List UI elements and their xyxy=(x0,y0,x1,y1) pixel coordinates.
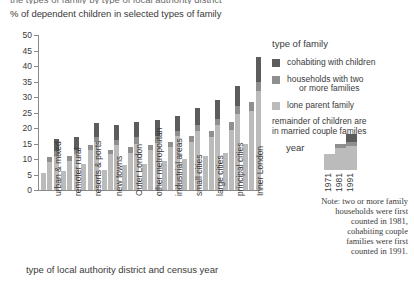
legend-item: households with twoor more families xyxy=(272,75,414,94)
year-key-label: 1981 xyxy=(334,173,344,192)
legend-items: cohabiting with childrenhouseholds with … xyxy=(272,58,414,110)
year-key-segment-lone xyxy=(335,148,346,170)
bar-segment-cohab xyxy=(256,57,261,82)
bar-segment-lone xyxy=(249,111,254,190)
cropped-heading: the types of family by type of local aut… xyxy=(10,0,310,4)
bar-1971 xyxy=(41,173,46,190)
bar-segment-two xyxy=(134,137,139,143)
x-tick-label: urban & mixed xyxy=(53,141,63,196)
x-tick-label: principal cities xyxy=(235,143,245,196)
legend-swatch-cohab xyxy=(272,59,280,67)
legend-item: cohabiting with children xyxy=(272,58,414,68)
y-tick-mark xyxy=(34,66,38,67)
note-line-3: counted in 1981, xyxy=(351,216,408,226)
bar-segment-two xyxy=(256,82,261,91)
x-tick-label: Outer London xyxy=(134,144,144,196)
y-tick-label: 15 xyxy=(23,139,32,149)
year-key-bar-1971 xyxy=(324,154,335,170)
bar-segment-cohab xyxy=(114,125,119,141)
y-tick-mark xyxy=(34,82,38,83)
y-tick-label: 5 xyxy=(27,170,32,180)
y-tick-label: 35 xyxy=(23,77,32,87)
bar-1981 xyxy=(88,145,93,190)
bar-segment-cohab xyxy=(94,123,99,137)
bar-segment-cohab xyxy=(235,86,240,106)
bar-segment-lone xyxy=(168,147,173,190)
bar-segment-cohab xyxy=(134,122,139,138)
y-tick-label: 20 xyxy=(23,123,32,133)
bar-segment-lone xyxy=(189,142,194,190)
x-tick-label: resorts & ports xyxy=(93,141,103,196)
legend-item: lone parent family xyxy=(272,101,414,111)
bar-segment-two xyxy=(67,156,72,161)
y-tick-label: 40 xyxy=(23,61,32,71)
bar-1981 xyxy=(128,147,133,190)
year-key-title: year xyxy=(286,142,304,153)
y-tick-mark xyxy=(34,113,38,114)
bar-segment-two xyxy=(215,119,220,125)
year-key-segment-two xyxy=(335,144,346,148)
legend-item-label: lone parent family xyxy=(287,101,354,111)
y-tick-mark xyxy=(34,190,38,191)
year-key-segment-lone xyxy=(346,146,357,170)
note-line-2: households were first xyxy=(335,206,408,216)
bar-1981 xyxy=(189,136,194,190)
bar-segment-two xyxy=(229,122,234,130)
bar-segment-two xyxy=(195,125,200,131)
y-tick-mark xyxy=(34,175,38,176)
x-tick-label: remoter rural xyxy=(73,147,83,196)
y-tick-label: 45 xyxy=(23,46,32,56)
year-key-segment-two xyxy=(346,142,357,146)
bar-1981 xyxy=(47,157,52,190)
bar-segment-two xyxy=(175,131,180,136)
bar-segment-two xyxy=(168,142,173,147)
bar-segment-cohab xyxy=(175,116,180,132)
y-tick-mark xyxy=(34,97,38,98)
bar-1981 xyxy=(148,145,153,190)
year-key-segment-lone xyxy=(324,154,335,170)
bar-segment-two xyxy=(114,140,119,145)
y-tick-mark xyxy=(34,128,38,129)
legend-item-label-line2: or more families xyxy=(287,84,364,94)
y-tick-mark xyxy=(34,144,38,145)
chart-subtitle: % of dependent children in selected type… xyxy=(10,8,221,19)
x-axis-title: type of local authority district and cen… xyxy=(26,264,218,275)
bar-1981 xyxy=(168,142,173,190)
chart-legend: type of family cohabiting with childrenh… xyxy=(272,38,414,136)
year-key-bar-1981 xyxy=(335,144,346,170)
bar-segment-lone xyxy=(67,161,72,190)
bar-segment-two xyxy=(209,131,214,137)
legend-swatch-lone xyxy=(272,102,280,110)
year-key-label: 1971 xyxy=(323,173,333,192)
note-line-6: counted in 1991. xyxy=(351,246,408,256)
y-tick-mark xyxy=(34,51,38,52)
legend-swatch-two xyxy=(272,76,280,84)
legend-item-label: households with twoor more families xyxy=(287,75,364,94)
x-tick-label: new towns xyxy=(114,156,124,196)
y-tick-label: 10 xyxy=(23,154,32,164)
year-key-label: 1991 xyxy=(345,173,355,192)
x-tick-label: industrial areas xyxy=(174,138,184,196)
note-line-4: cohabiting couple xyxy=(347,226,408,236)
bar-segment-lone xyxy=(88,150,93,190)
y-tick-mark xyxy=(34,159,38,160)
y-tick-label: 25 xyxy=(23,108,32,118)
y-tick-label: 50 xyxy=(23,30,32,40)
bar-1981 xyxy=(249,102,254,190)
x-tick-label: other metropolitan xyxy=(154,127,164,196)
bar-segment-two xyxy=(47,157,52,162)
bar-1981 xyxy=(108,150,113,190)
chart-footnote: Note: two or more family households were… xyxy=(262,196,408,256)
x-axis-line xyxy=(38,190,260,191)
bar-segment-two xyxy=(249,102,254,111)
note-line-1: Note: two or more family xyxy=(321,196,408,206)
x-tick-label: small cities xyxy=(194,154,204,196)
chart-plot-area: 05101520253035404550 xyxy=(38,35,260,190)
bar-1981 xyxy=(67,156,72,190)
bar-segment-lone xyxy=(229,130,234,190)
x-tick-label: large cities xyxy=(215,155,225,196)
bar-segment-lone xyxy=(128,153,133,190)
note-line-5: families were first xyxy=(346,236,408,246)
y-tick-label: 30 xyxy=(23,92,32,102)
bar-segment-two xyxy=(108,150,113,155)
